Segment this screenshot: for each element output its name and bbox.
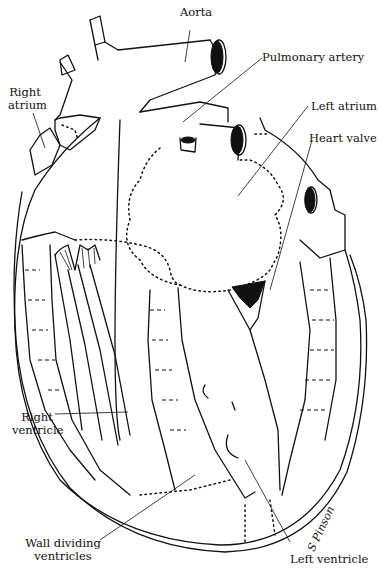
aorta-shape (55, 16, 226, 120)
left-ventricle-marks (203, 385, 238, 458)
label-pulmonary-artery: Pulmonary artery (262, 51, 364, 64)
label-right-ventricle-line2: ventricle (12, 424, 62, 437)
label-left-ventricle: Left ventricle (290, 553, 368, 566)
right-atrium-shape (30, 115, 100, 175)
label-heart-valve: Heart valve (309, 132, 377, 145)
label-left-atrium: Left atrium (311, 100, 377, 113)
heart-valve-shape (228, 281, 265, 330)
label-aorta: Aorta (180, 6, 212, 19)
heart-outline (14, 102, 367, 552)
label-wall-line2: ventricles (24, 550, 102, 563)
left-atrium-shape (75, 148, 283, 292)
label-right-atrium-line2: atrium (8, 99, 42, 112)
label-right-ventricle: Right ventricle (12, 411, 62, 437)
label-right-atrium: Right atrium (8, 86, 42, 112)
heart-diagram (0, 0, 378, 577)
label-wall-dividing-ventricles: Wall dividing ventricles (24, 537, 102, 563)
